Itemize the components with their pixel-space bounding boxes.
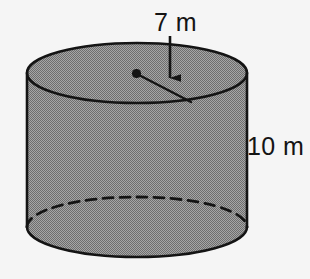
radius-label: 7 m xyxy=(154,10,197,35)
figure-canvas: 7 m 10 m xyxy=(0,0,310,279)
center-point-dot xyxy=(132,69,141,78)
height-label: 10 m xyxy=(247,134,304,159)
